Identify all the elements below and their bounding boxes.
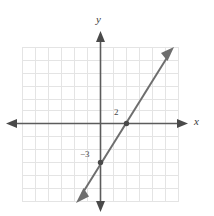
y-intercept-label: −3 (80, 150, 90, 159)
x-intercept-label: 2 (114, 108, 119, 117)
x-axis (6, 119, 188, 128)
y-intercept-point (98, 160, 103, 165)
x-axis-label: x (194, 116, 199, 127)
x-intercept-point (124, 121, 129, 126)
coordinate-plane-figure: y x 2 −3 (0, 0, 214, 216)
graph-canvas (0, 0, 214, 216)
y-axis-label: y (96, 14, 101, 25)
y-axis (96, 31, 105, 212)
